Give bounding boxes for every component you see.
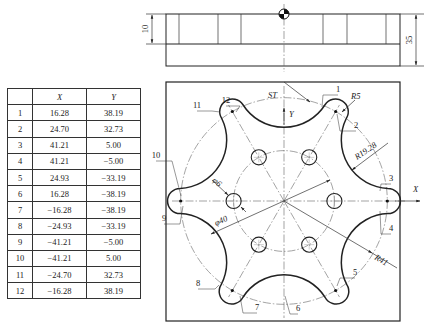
dim-R19-label: R19.28 (352, 139, 379, 162)
lobe-center-dot (179, 199, 182, 202)
point-label: 7 (255, 302, 259, 312)
datum-origin-icon (279, 9, 289, 19)
dim-35-label: 35 (404, 36, 414, 45)
point-labels: 123456789101112 (152, 84, 394, 314)
point-label: 4 (389, 223, 394, 233)
point-leader (156, 161, 181, 196)
dim-pcd-label: φ40 (213, 213, 230, 228)
dim-10-label: 10 (140, 25, 150, 34)
point-label: 10 (152, 150, 161, 160)
point-label: 9 (162, 213, 166, 223)
dim-hole-label: φ6 (211, 175, 225, 189)
cam-drawing: 10 35 X Y ST 123456789101112 R5 R19.28 R… (0, 0, 431, 331)
side-view-outline (166, 14, 400, 66)
lobe-center-dot (386, 199, 389, 202)
x-axis-label: X (412, 184, 419, 194)
side-view: 10 35 (140, 4, 424, 72)
dim-hole-leader-2 (241, 207, 246, 212)
point-label: 3 (389, 173, 393, 183)
dim-R5-label: R5 (350, 91, 360, 101)
lobe-center-dot (334, 289, 337, 292)
point-label: 8 (196, 278, 200, 288)
point-label: 1 (336, 84, 340, 94)
point-label: 5 (353, 267, 357, 277)
dim-R41-leader (284, 201, 372, 253)
plan-view: X Y ST 123456789101112 R5 R19.28 R41 φ6 … (152, 82, 420, 321)
y-axis-label: Y (289, 109, 295, 119)
lobe-center-dot (231, 289, 234, 292)
point-label: 6 (296, 303, 300, 313)
point-label: 11 (193, 100, 201, 110)
start-direction-arrow (284, 82, 310, 102)
point-label: 12 (222, 95, 231, 105)
point-label: 2 (354, 120, 358, 130)
lobe-center-dot (231, 110, 234, 113)
lobe-center-dot (334, 110, 337, 113)
point-leader (197, 111, 220, 112)
dim-R41-label: R41 (372, 252, 390, 268)
point-leader (198, 285, 219, 289)
point-leader (164, 206, 183, 224)
